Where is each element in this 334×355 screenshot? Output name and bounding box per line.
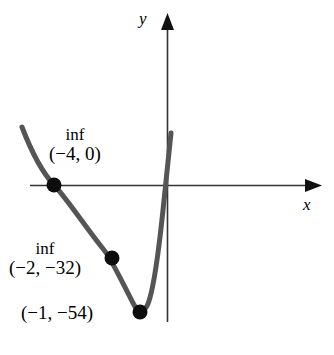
annotation-root-inf: inf [49, 126, 101, 144]
annotation-root: inf (−4, 0) [49, 126, 101, 165]
x-axis-label: x [303, 196, 311, 213]
annotation-inflection-coords: (−2, −32) [9, 258, 81, 279]
annotation-root-coords: (−4, 0) [49, 144, 101, 165]
y-axis-label: y [139, 10, 147, 27]
y-axis-arrowhead [161, 13, 174, 30]
data-point-minimum [133, 305, 148, 320]
annotation-inflection-inf: inf [9, 240, 81, 258]
x-axis-arrowhead [305, 179, 322, 192]
data-point-inflection [105, 251, 120, 266]
annotation-inflection: inf (−2, −32) [9, 240, 81, 279]
annotation-minimum: (−1, −54) [21, 303, 93, 324]
annotation-minimum-coords: (−1, −54) [21, 303, 93, 324]
data-point-root [47, 178, 62, 193]
graph-figure: y x inf (−4, 0) inf (−2, −32) (−1, −54) [0, 0, 334, 355]
